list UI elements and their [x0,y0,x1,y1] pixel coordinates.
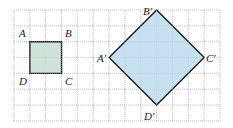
label-c-prime: C′ [206,52,216,64]
label-b: B [65,27,72,39]
label-b-prime: B′ [143,5,153,17]
label-c: C [65,75,73,87]
label-a-prime: A′ [96,52,107,64]
label-d: D [18,75,27,87]
diagram: A B C D A′ B′ C′ D′ [0,0,233,128]
label-d-prime: D′ [143,110,155,122]
label-a: A [18,27,26,39]
